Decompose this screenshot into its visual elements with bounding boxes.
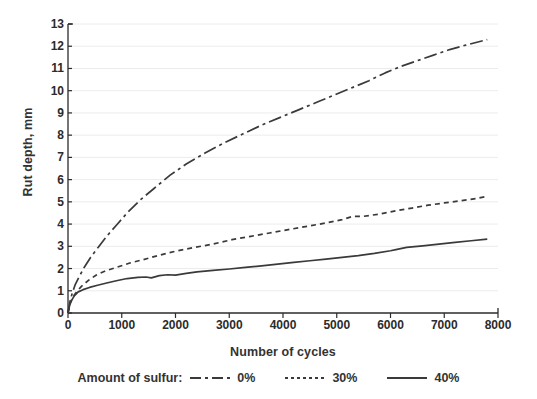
x-tick-label: 8000 [468,319,528,331]
x-tick-label: 4000 [253,319,313,331]
y-tick-label: 3 [40,240,64,252]
gridlines [68,24,498,291]
data-series [68,40,487,313]
legend-entry-30pct[interactable]: 30% [285,371,357,385]
y-tick-label: 1 [40,285,64,297]
legend-entry-40pct[interactable]: 40% [387,371,459,385]
series-line-0pct [68,40,487,313]
legend-label: 0% [237,371,255,385]
axis-lines [68,24,498,313]
legend-label: 40% [434,371,459,385]
y-tick-label: 10 [40,85,64,97]
y-tick-label: 11 [40,62,64,74]
x-tick-label: 0 [38,319,98,331]
y-tick-label: 2 [40,263,64,275]
legend-label: 30% [332,371,357,385]
x-tick-label: 7000 [414,319,474,331]
legend-entries: 0%30%40% [190,371,459,385]
y-tick-label: 13 [40,18,64,30]
y-tick-label: 12 [40,40,64,52]
x-tick-label: 1000 [92,319,152,331]
x-tick-label: 3000 [199,319,259,331]
y-axis-tick-labels: 131211109876543210 [38,0,64,399]
chart-figure: Rut depth, mm 131211109876543210 0100020… [0,0,537,399]
legend-title: Amount of sulfur: [78,371,183,385]
x-tick-label: 2000 [146,319,206,331]
legend-swatch-icon [190,373,230,383]
x-axis-tick-labels: 010002000300040005000600070008000 [0,319,537,339]
legend-swatch-icon [387,373,427,383]
x-axis-title: Number of cycles [68,345,498,359]
legend-entry-0pct[interactable]: 0% [190,371,255,385]
series-line-30pct [68,196,487,313]
y-tick-label: 0 [40,307,64,319]
plot-area [0,0,537,399]
y-axis-title: Rut depth, mm [21,62,35,242]
legend: Amount of sulfur: 0%30%40% [0,366,537,390]
x-tick-label: 6000 [361,319,421,331]
y-tick-label: 6 [40,174,64,186]
legend-swatch-icon [285,373,325,383]
y-tick-label: 7 [40,151,64,163]
x-tick-label: 5000 [307,319,367,331]
y-tick-label: 4 [40,218,64,230]
y-tick-label: 8 [40,129,64,141]
y-tick-label: 9 [40,107,64,119]
series-line-40pct [68,239,487,313]
y-tick-label: 5 [40,196,64,208]
